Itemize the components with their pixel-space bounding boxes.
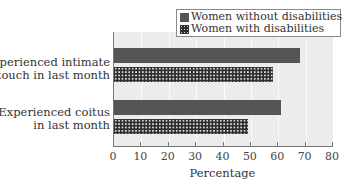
x-axis-tick [305,142,306,146]
x-axis-tick-label: 10 [128,150,152,163]
legend-label: Women with disabilities [191,23,324,35]
x-axis-tick-label: 50 [238,150,262,163]
category-label-line: touch in last month [0,69,110,82]
x-axis-tick-label: 30 [183,150,207,163]
x-axis-label: Percentage [113,166,332,180]
category-label-line: in last month [0,119,110,132]
plot-area [113,32,333,147]
gridline [306,32,307,146]
x-axis-tick-label: 70 [293,150,317,163]
bar-with-disabilities-1 [114,119,248,134]
x-axis-tick-label: 0 [101,150,125,163]
x-axis-tick-label: 20 [156,150,180,163]
x-axis-tick-label: 60 [265,150,289,163]
x-axis-tick [140,142,141,146]
bar-with-disabilities-0 [114,67,273,82]
x-axis-tick [277,142,278,146]
bar-without-disabilities-0 [114,48,300,63]
x-axis-tick [168,142,169,146]
legend: Women without disabilities Women with di… [176,9,341,37]
category-label-coitus: Experienced coitus in last month [0,106,110,132]
x-axis-tick-label: 40 [211,150,235,163]
legend-swatch-dotted-icon [180,25,189,34]
x-axis-tick [332,142,333,146]
x-axis-tick [195,142,196,146]
x-axis-tick [223,142,224,146]
legend-item-with-disabilities: Women with disabilities [180,23,324,35]
legend-swatch-solid-icon [180,13,189,22]
x-axis-tick-label: 80 [320,150,344,163]
x-axis-tick [250,142,251,146]
bar-without-disabilities-1 [114,100,281,115]
category-label-intimate-touch: Experienced intimate touch in last month [0,56,110,82]
